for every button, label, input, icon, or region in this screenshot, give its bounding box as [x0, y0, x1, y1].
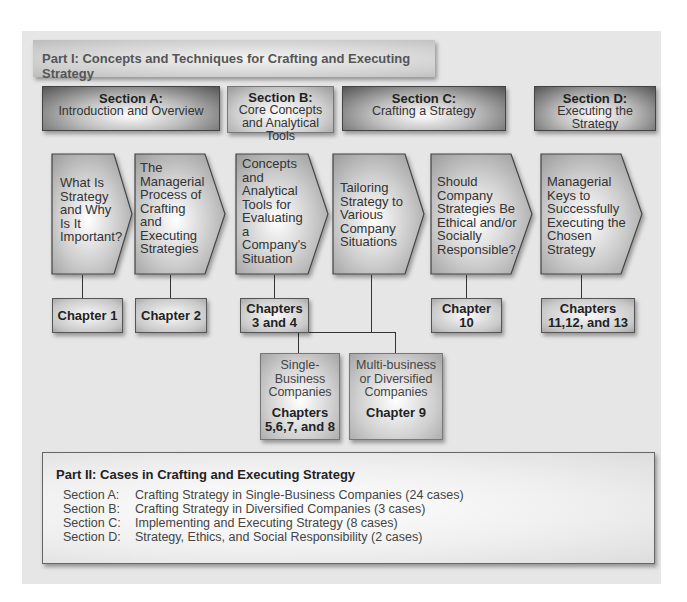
row-text: Crafting Strategy in Single-Business Com…: [135, 488, 464, 502]
topic-line: Strategy to: [340, 195, 403, 209]
row-label: Section C:: [63, 516, 135, 530]
row-label: Section B:: [63, 502, 135, 516]
subtopic-line: Companies: [350, 386, 442, 400]
topic-line: The: [140, 161, 204, 175]
part2-title: Part II: Cases in Crafting and Executing…: [56, 467, 355, 482]
connector-line: [298, 332, 395, 333]
chapter-label: Chapter 1: [58, 309, 118, 323]
row-text: Implementing and Executing Strategy (8 c…: [135, 516, 398, 530]
connector-line: [466, 275, 467, 299]
topic-line: Should: [437, 175, 517, 189]
chapter-box-3-4: Chapters3 and 4: [240, 298, 309, 333]
chapter-label: Chapters: [548, 302, 628, 316]
chapter-label: Chapter 2: [141, 309, 201, 323]
part2-row: Section B:Crafting Strategy in Diversifi…: [63, 502, 425, 516]
connector-line: [170, 275, 171, 299]
topic-line: Tools for: [242, 198, 307, 212]
topic-line: Successfully: [547, 202, 626, 216]
topic-line: Crafting: [140, 202, 204, 216]
chapter-box-1: Chapter 1: [52, 298, 123, 333]
section-c-header: Section C: Crafting a Strategy: [342, 86, 506, 131]
section-d-header: Section D: Executing the Strategy: [534, 86, 656, 131]
row-label: Section A:: [63, 488, 135, 502]
topic-line: Situation: [242, 252, 307, 266]
topic-arrow-5: Should Company Strategies Be Ethical and…: [431, 154, 534, 275]
topic-line: and: [140, 215, 204, 229]
section-c-subtitle: Crafting a Strategy: [372, 104, 476, 118]
subtopic-line: Single-: [261, 359, 339, 373]
connector-line: [581, 275, 582, 299]
chapter-label: 11,12, and 13: [548, 316, 628, 330]
topic-line: Strategies: [140, 242, 204, 256]
chapter-box-11-13: Chapters11,12, and 13: [541, 298, 635, 333]
topic-line: Process of: [140, 188, 204, 202]
section-b-subtitle: Core Concepts and Analytical Tools: [239, 103, 322, 143]
topic-line: and: [242, 171, 307, 185]
chapter-label: 10: [442, 316, 491, 330]
chapter-box-2: Chapter 2: [135, 298, 207, 333]
subtopic-line: Multi-business: [350, 359, 442, 373]
row-text: Strategy, Ethics, and Social Responsibil…: [135, 530, 422, 544]
connector-line: [82, 275, 83, 299]
chapter-box-10: Chapter10: [431, 298, 502, 333]
topic-arrow-1: What Is Strategy and Why Is It Important…: [52, 154, 134, 275]
chapter-label: Chapters: [272, 405, 328, 420]
connector-line: [395, 332, 396, 354]
topic-line: Strategy: [60, 190, 122, 204]
section-a-header: Section A: Introduction and Overview: [42, 86, 220, 131]
chapter-label: Chapters: [246, 302, 302, 316]
topic-line: a: [242, 225, 307, 239]
subtopic-line: Companies: [261, 386, 339, 400]
topic-line: Is It: [60, 217, 122, 231]
chapter-label: 3 and 4: [246, 316, 302, 330]
connector-line: [298, 332, 299, 354]
topic-line: Strategies Be: [437, 202, 517, 216]
part1-banner: Part I: Concepts and Techniques for Craf…: [33, 40, 435, 77]
section-b-header: Section B: Core Concepts and Analytical …: [227, 86, 334, 133]
topic-line: and Why: [60, 203, 122, 217]
topic-line: Various: [340, 208, 403, 222]
topic-line: Concepts: [242, 157, 307, 171]
topic-line: Executing the: [547, 216, 626, 230]
topic-line: Socially: [437, 229, 517, 243]
topic-line: Strategy: [547, 243, 626, 257]
section-a-subtitle: Introduction and Overview: [58, 104, 203, 118]
connector-line: [274, 275, 275, 299]
topic-line: Evaluating: [242, 211, 307, 225]
chapter-label: Chapter 9: [366, 405, 426, 420]
topic-line: Executing: [140, 229, 204, 243]
row-text: Crafting Strategy in Diversified Compani…: [135, 502, 425, 516]
part2-row: Section C:Implementing and Executing Str…: [63, 516, 398, 530]
topic-arrow-6: Managerial Keys to Successfully Executin…: [541, 154, 644, 275]
topic-line: Responsible?: [437, 243, 517, 257]
multi-business-box: Multi-business or Diversified Companies …: [349, 353, 443, 440]
part1-title: Part I: Concepts and Techniques for Craf…: [42, 51, 435, 81]
chapter-label: Chapter: [442, 302, 491, 316]
topic-line: Tailoring: [340, 181, 403, 195]
subtopic-line: Business: [261, 373, 339, 387]
part2-box: Part II: Cases in Crafting and Executing…: [42, 452, 655, 564]
connector-line: [371, 275, 372, 332]
section-d-subtitle: Executing the Strategy: [557, 104, 633, 131]
topic-arrow-2: The Managerial Process of Crafting and E…: [135, 154, 227, 275]
part2-row: Section D:Strategy, Ethics, and Social R…: [63, 530, 422, 544]
topic-line: Chosen: [547, 229, 626, 243]
topic-line: What Is: [60, 176, 122, 190]
topic-line: Situations: [340, 235, 403, 249]
topic-arrow-4: Tailoring Strategy to Various Company Si…: [333, 154, 426, 275]
topic-line: Company: [340, 222, 403, 236]
topic-arrow-3: Concepts and Analytical Tools for Evalua…: [236, 154, 330, 275]
topic-line: Keys to: [547, 189, 626, 203]
row-label: Section D:: [63, 530, 135, 544]
chapter-label: 5,6,7, and 8: [265, 419, 335, 434]
single-business-box: Single- Business Companies Chapters5,6,7…: [260, 353, 340, 440]
part2-row: Section A:Crafting Strategy in Single-Bu…: [63, 488, 464, 502]
topic-line: Ethical and/or: [437, 216, 517, 230]
subtopic-line: or Diversified: [350, 373, 442, 387]
topic-line: Company: [437, 189, 517, 203]
topic-line: Analytical: [242, 184, 307, 198]
topic-line: Managerial: [547, 175, 626, 189]
topic-line: Important?: [60, 230, 122, 244]
topic-line: Managerial: [140, 175, 204, 189]
topic-line: Company's: [242, 238, 307, 252]
